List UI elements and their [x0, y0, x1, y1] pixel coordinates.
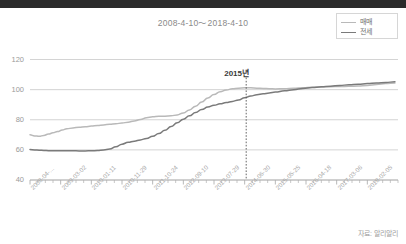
x-axis-tick-label: 2010-01-11: [90, 164, 117, 191]
x-axis-tick-label: 2016-04-18: [305, 164, 332, 191]
x-axis-labels: 2008-04-...2009-03-022010-01-112010-11-2…: [0, 0, 406, 244]
x-axis-tick-label: 2017-03-06: [336, 164, 363, 191]
x-axis-tick-label: 2014-06-30: [244, 164, 271, 191]
x-axis-tick-label: 2013-07-29: [213, 164, 240, 191]
x-axis-tick-label: 2018-02-05: [366, 164, 393, 191]
x-axis-tick-label: 2009-03-02: [60, 164, 87, 191]
x-axis-tick-label: 2015-05-25: [274, 164, 301, 191]
source-note: 자료: 알리알리: [358, 228, 398, 238]
x-axis-tick-label: 2012-09-10: [182, 164, 209, 191]
x-axis-tick-label: 2010-11-29: [121, 164, 148, 191]
year-annotation-label: 2015년: [224, 67, 249, 78]
x-axis-tick-label: 2011-10-24: [152, 164, 179, 191]
x-axis-tick-label: 2008-04-...: [29, 165, 55, 191]
